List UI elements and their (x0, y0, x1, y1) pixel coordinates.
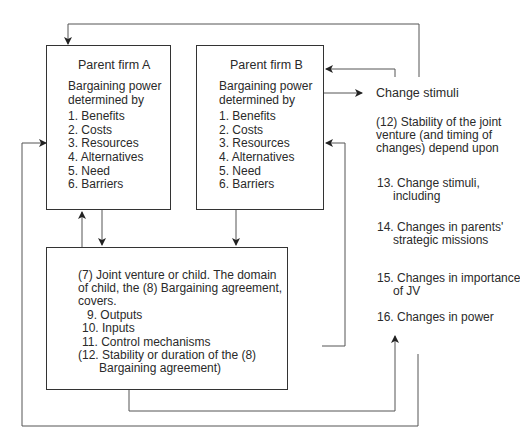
parent-b-title: Parent firm B (230, 58, 303, 72)
item-13: 13. Change stimuli, including (377, 177, 480, 203)
jv-item-9: 9. Outputs (87, 308, 142, 322)
list-item: 5. Need (68, 164, 143, 178)
list-item: 4. Alternatives (68, 150, 143, 164)
list-item: 4. Alternatives (219, 150, 294, 164)
item-14-line-2: strategic missions (377, 234, 503, 247)
list-item: 5. Need (219, 164, 294, 178)
parent-a-title: Parent firm A (78, 58, 150, 72)
parent-b-subtitle-line1: Bargaining power (219, 79, 312, 93)
parent-b-subtitle: Bargaining power determined by (219, 79, 312, 107)
jv-item-12-cont: Bargaining agreement) (99, 361, 221, 375)
item-13-line-2: including (377, 190, 480, 203)
parent-b-factor-list: 1. Benefits 2. Costs 3. Resources 4. Alt… (219, 109, 294, 191)
stability-line-3: changes) depend upon (376, 142, 501, 155)
list-item: 2. Costs (219, 123, 294, 137)
stability-description: (12) Stability of the joint venture (and… (376, 116, 501, 155)
item-16: 16. Changes in power (377, 310, 494, 324)
jv-item-12: (12. Stability or duration of the (8) (78, 348, 256, 362)
list-item: 2. Costs (68, 123, 143, 137)
parent-a-subtitle-line1: Bargaining power (68, 79, 161, 93)
list-item: 3. Resources (219, 136, 294, 150)
list-item: 1. Benefits (68, 109, 143, 123)
list-item: 3. Resources (68, 136, 143, 150)
item-15: 15. Changes in importance of JV (377, 272, 520, 298)
parent-a-subtitle-line2: determined by (68, 93, 161, 107)
parent-a-subtitle: Bargaining power determined by (68, 79, 161, 107)
item-14: 14. Changes in parents' strategic missio… (377, 221, 503, 247)
list-item: 6. Barriers (219, 177, 294, 191)
change-stimuli-label: Change stimuli (376, 86, 459, 100)
list-item: 1. Benefits (219, 109, 294, 123)
list-item: 6. Barriers (68, 177, 143, 191)
item-15-line-2: of JV (377, 285, 520, 298)
joint-venture-description: (7) Joint venture or child. The domain o… (78, 269, 282, 308)
parent-b-subtitle-line2: determined by (219, 93, 312, 107)
jv-line-3: covers. (78, 295, 282, 308)
jv-item-10: 10. Inputs (82, 321, 135, 335)
jv-item-11: 11. Control mechanisms (82, 335, 211, 349)
parent-a-factor-list: 1. Benefits 2. Costs 3. Resources 4. Alt… (68, 109, 143, 191)
